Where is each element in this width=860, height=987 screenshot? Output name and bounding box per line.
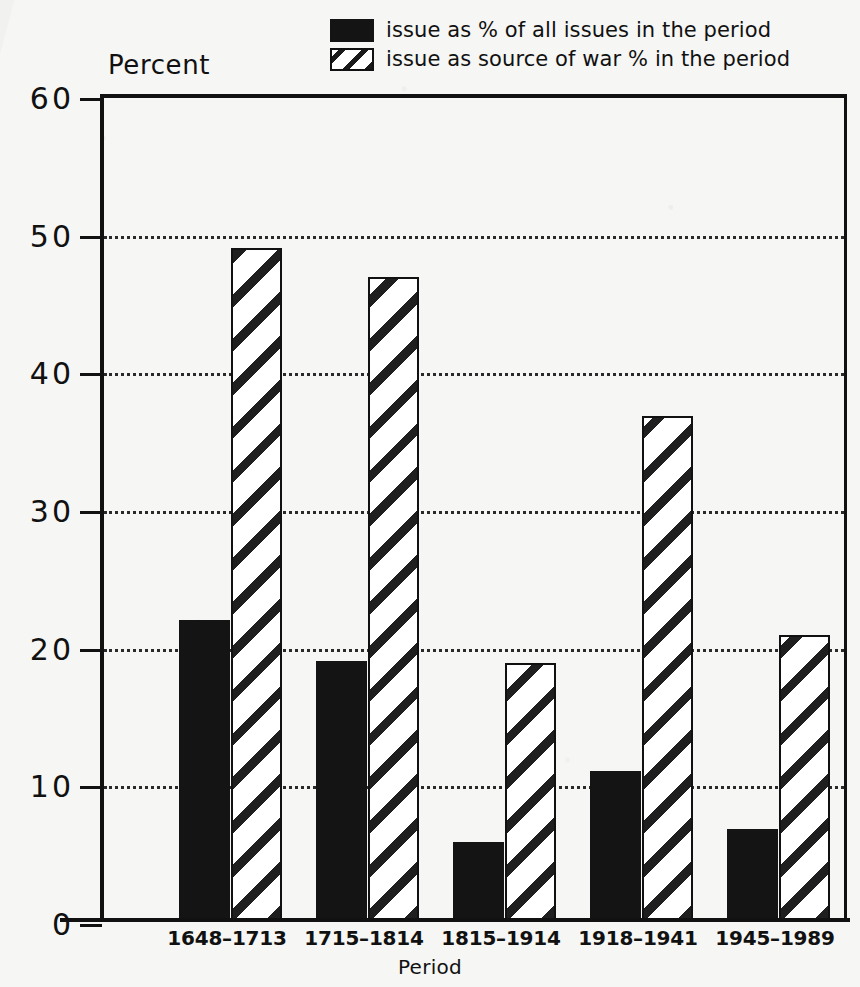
bar-series-container <box>104 98 844 920</box>
bar-war-source-1715–1814 <box>368 277 419 920</box>
x-axis-title: Period <box>0 955 860 979</box>
y-tick-mark <box>80 649 102 652</box>
bar-war-source-1648–1713 <box>231 248 282 920</box>
x-axis-line <box>60 918 850 922</box>
y-tick-mark <box>80 511 102 514</box>
legend-label-solid: issue as % of all issues in the period <box>386 18 771 42</box>
category-label-1945–1989: 1945–1989 <box>715 926 835 950</box>
bar-issues-1715–1814 <box>316 661 367 920</box>
y-tick-mark <box>80 236 102 239</box>
bar-issues-1648–1713 <box>179 620 230 920</box>
chart-legend: issue as % of all issues in the period i… <box>330 18 790 71</box>
plot-area: 0102030405060 <box>100 94 847 920</box>
category-label-1715–1814: 1715–1814 <box>304 926 424 950</box>
y-tick-mark <box>80 98 102 101</box>
hatched-swatch <box>330 48 374 71</box>
category-label-1918–1941: 1918–1941 <box>578 926 698 950</box>
y-tick-label: 0 <box>52 907 74 942</box>
y-tick-label: 50 <box>30 218 74 253</box>
bar-war-source-1945–1989 <box>779 635 830 920</box>
bar-issues-1918–1941 <box>590 771 641 920</box>
legend-item-solid: issue as % of all issues in the period <box>330 18 790 42</box>
y-tick-mark <box>80 786 102 789</box>
solid-black-swatch <box>330 19 374 42</box>
y-tick-label: 10 <box>30 769 74 804</box>
bar-issues-1945–1989 <box>727 829 778 920</box>
legend-label-hatched: issue as source of war % in the period <box>386 47 790 71</box>
y-tick-label: 30 <box>30 494 74 529</box>
y-tick-mark <box>80 924 102 927</box>
y-axis-title: Percent <box>108 50 210 80</box>
bar-issues-1815–1914 <box>453 842 504 920</box>
category-label-1815–1914: 1815–1914 <box>441 926 561 950</box>
bar-chart: issue as % of all issues in the period i… <box>0 0 860 987</box>
y-tick-mark <box>80 373 102 376</box>
bar-war-source-1815–1914 <box>505 663 556 920</box>
legend-item-hatched: issue as source of war % in the period <box>330 47 790 71</box>
category-label-1648–1713: 1648–1713 <box>167 926 287 950</box>
y-tick-label: 60 <box>30 81 74 116</box>
bar-war-source-1918–1941 <box>642 416 693 920</box>
y-tick-label: 20 <box>30 631 74 666</box>
y-tick-label: 40 <box>30 356 74 391</box>
